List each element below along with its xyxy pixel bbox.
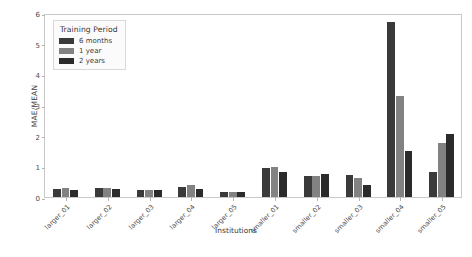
x-tick-mark [233,197,234,201]
y-tick-label: 6 [30,10,40,20]
bar-group [429,15,455,197]
x-tick-mark [359,197,360,201]
legend-item[interactable]: 2 years [59,57,118,65]
bar[interactable] [62,188,70,198]
bar[interactable] [354,178,362,197]
x-axis-label: Institutions [0,226,472,235]
bar[interactable] [321,174,329,197]
bar[interactable] [95,188,103,197]
y-tick-mark [42,137,46,138]
bar-group [262,15,288,197]
plot-area: MAE/MEAN 0123456 larger_01larger_02large… [44,14,462,198]
bar[interactable] [363,185,371,197]
bar[interactable] [70,190,78,197]
bar[interactable] [262,168,270,197]
bar-group [304,15,330,197]
bar[interactable] [178,187,186,197]
bar[interactable] [112,189,120,197]
legend-label: 6 months [79,37,112,45]
y-tick-mark [42,199,46,200]
legend-items: 6 months1 year2 years [59,37,118,65]
bar[interactable] [312,176,320,197]
y-tick-label: 4 [30,71,40,81]
bar-group [137,15,163,197]
x-tick-mark [275,197,276,201]
y-tick-mark [42,76,46,77]
x-tick-mark [191,197,192,201]
bar[interactable] [279,172,287,197]
legend: Training Period 6 months1 year2 years [53,20,126,70]
x-tick-mark [442,197,443,201]
x-tick-mark [66,197,67,201]
bar[interactable] [346,175,354,197]
bar[interactable] [405,151,413,197]
legend-title: Training Period [60,25,118,34]
bar[interactable] [53,189,61,197]
y-tick-mark [42,15,46,16]
y-tick-mark [42,107,46,108]
legend-label: 1 year [79,47,101,55]
bar-group [387,15,413,197]
bar-group [346,15,372,197]
bar[interactable] [220,192,228,197]
legend-swatch [59,58,74,64]
bar[interactable] [396,96,404,197]
y-tick-label: 1 [30,163,40,173]
bar[interactable] [446,134,454,197]
legend-swatch [59,48,74,54]
bar-group [220,15,246,197]
x-tick-mark [108,197,109,201]
y-tick-mark [42,45,46,46]
legend-item[interactable]: 6 months [59,37,118,45]
y-tick-label: 0 [30,194,40,204]
bar[interactable] [103,188,111,197]
x-tick-mark [317,197,318,201]
y-tick-mark [42,168,46,169]
x-tick-mark [400,197,401,201]
bar[interactable] [429,172,437,197]
legend-label: 2 years [79,57,105,65]
y-tick-label: 2 [30,133,40,143]
y-tick-label: 3 [30,102,40,112]
bar-group [178,15,204,197]
bar[interactable] [237,192,245,197]
bar[interactable] [137,190,145,197]
bar[interactable] [304,176,312,197]
bar[interactable] [145,190,153,197]
legend-item[interactable]: 1 year [59,47,118,55]
bar[interactable] [187,185,195,197]
figure: MAE/MEAN 0123456 larger_01larger_02large… [0,0,472,257]
x-tick-mark [150,197,151,201]
bar[interactable] [438,143,446,197]
bar[interactable] [196,189,204,197]
bar[interactable] [387,22,395,197]
bar[interactable] [154,190,162,197]
bar[interactable] [271,167,279,197]
bar[interactable] [229,192,237,197]
y-tick-label: 5 [30,41,40,51]
legend-swatch [59,38,74,44]
